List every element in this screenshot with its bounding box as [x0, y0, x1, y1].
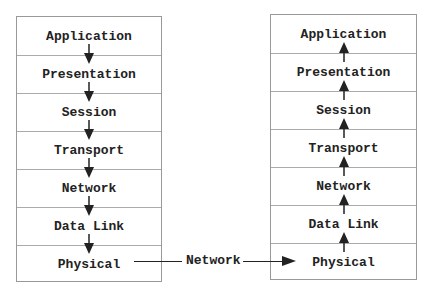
- right-osi-stack: ApplicationPresentationSessionTransportN…: [270, 14, 417, 280]
- network-connection-line: [134, 261, 182, 262]
- arrow-down-icon: [84, 234, 94, 254]
- arrow-up-icon: [339, 232, 349, 252]
- arrow-down-icon: [84, 158, 94, 178]
- arrow-up-icon: [339, 156, 349, 176]
- network-connection-label: Network: [185, 253, 242, 268]
- left-osi-stack: ApplicationPresentationSessionTransportN…: [16, 16, 162, 282]
- arrow-up-icon: [339, 194, 349, 214]
- arrow-down-icon: [84, 82, 94, 102]
- arrow-down-icon: [84, 44, 94, 64]
- arrow-down-icon: [84, 196, 94, 216]
- arrow-down-icon: [84, 120, 94, 140]
- arrow-up-icon: [339, 80, 349, 100]
- arrow-up-icon: [339, 118, 349, 138]
- network-connection-line-2: [243, 261, 285, 262]
- arrowhead-right-icon: [282, 256, 296, 266]
- arrow-up-icon: [339, 42, 349, 62]
